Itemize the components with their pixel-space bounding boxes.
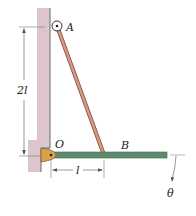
label-2l: 2l [16, 84, 28, 97]
diagram-canvas: 2l l θ A B O [0, 0, 196, 216]
label-A: A [65, 21, 74, 34]
arrow-up-icon [22, 28, 26, 33]
label-theta: θ [167, 187, 174, 200]
pin-A-center-icon [56, 25, 59, 28]
label-B: B [120, 139, 129, 152]
theta-arc [172, 156, 176, 180]
label-l: l [76, 164, 80, 177]
pivot-O-icon [41, 148, 56, 162]
bar-OB [51, 152, 167, 158]
arrow-left-icon [52, 168, 57, 172]
arrow-right-icon [98, 168, 103, 172]
theta-arrow-icon [171, 177, 174, 182]
label-O: O [55, 138, 64, 151]
rod-AB-fill [57, 26, 104, 155]
pivot-pin-icon [50, 154, 53, 157]
wall [37, 8, 50, 158]
arrow-down-icon [22, 150, 26, 155]
mechanics-diagram: 2l l θ A B O [0, 0, 196, 216]
